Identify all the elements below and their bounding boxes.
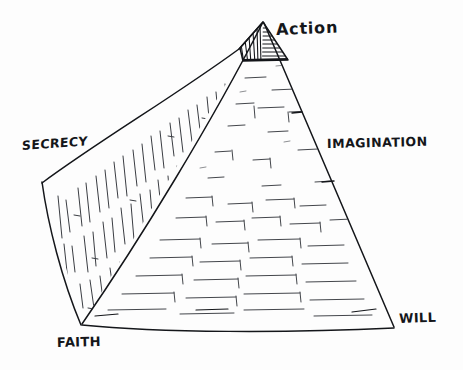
capstone-base-line [243, 59, 288, 60]
base-accent-strokes [95, 309, 376, 316]
label-imagination: IMAGINATION [327, 136, 428, 151]
edge-left-descend [42, 182, 81, 325]
pyramid-diagram: Action SECRECY IMAGINATION FAITH WILL [0, 0, 463, 370]
right-face-texture [108, 59, 372, 316]
pyramid-drawing [0, 0, 463, 370]
label-action: Action [276, 20, 339, 38]
edge-secrecy-ridge [42, 49, 239, 183]
pyramid-outline [42, 22, 394, 331]
label-will: WILL [399, 311, 437, 325]
label-faith: FAITH [57, 335, 101, 349]
edge-base [82, 325, 394, 331]
